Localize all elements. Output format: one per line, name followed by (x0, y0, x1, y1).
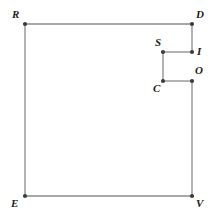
vertex-label-v: V (196, 198, 203, 209)
vertex-label-c: C (153, 83, 160, 94)
geometry-figure: RDISCOVE (0, 0, 221, 217)
vertex-dot-e (23, 194, 27, 198)
vertex-label-d: D (196, 9, 204, 20)
vertex-label-i: I (197, 46, 201, 57)
vertex-label-r: R (12, 9, 19, 20)
vertex-dot-o (190, 79, 194, 83)
vertex-dot-d (190, 22, 194, 26)
vertex-dot-s (161, 50, 165, 54)
polygon-vertices (23, 22, 194, 198)
vertex-dot-r (23, 22, 27, 26)
polygon-edges (25, 24, 192, 196)
figure-canvas (0, 0, 221, 217)
vertex-label-e: E (11, 198, 18, 209)
vertex-dot-v (190, 194, 194, 198)
vertex-label-o: O (195, 65, 203, 76)
vertex-label-s: S (155, 37, 161, 48)
vertex-dot-i (190, 50, 194, 54)
vertex-dot-c (161, 79, 165, 83)
